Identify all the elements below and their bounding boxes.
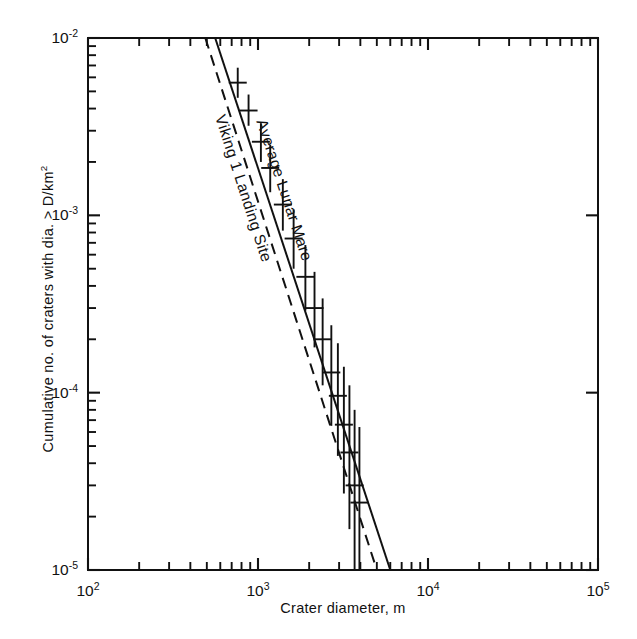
y-axis-title-text: Cumulative no. of craters with dia. > D/… bbox=[40, 171, 56, 452]
svg-text:102: 102 bbox=[76, 580, 99, 599]
y-axis-title: Cumulative no. of craters with dia. > D/… bbox=[38, 74, 56, 544]
axis-tick-labels: 10210310410510-210-310-410-5 bbox=[51, 27, 609, 599]
crater-size-frequency-plot: 10210310410510-210-310-410-5 Average Lun… bbox=[0, 0, 637, 639]
data-series-lines bbox=[205, 38, 390, 570]
svg-text:10-5: 10-5 bbox=[51, 559, 78, 578]
chart-figure: 10210310410510-210-310-410-5 Average Lun… bbox=[0, 0, 637, 639]
svg-text:10-2: 10-2 bbox=[51, 27, 78, 46]
svg-text:103: 103 bbox=[246, 580, 269, 599]
y-axis-title-exponent: 2 bbox=[38, 165, 49, 171]
svg-text:105: 105 bbox=[586, 580, 609, 599]
svg-text:104: 104 bbox=[416, 580, 439, 599]
x-axis-title: Crater diameter, m bbox=[88, 600, 598, 616]
